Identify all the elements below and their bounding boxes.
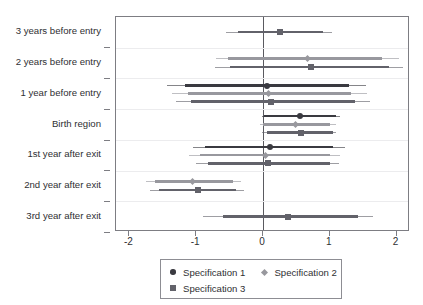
y-axis-tick-label: 2 years before entry xyxy=(16,56,101,67)
y-axis-labels: 3 years before entry2 years before entry… xyxy=(0,16,110,231)
legend-item-specification-3: Specification 3 xyxy=(168,283,245,294)
y-axis-tick-label: Birth region xyxy=(52,118,101,129)
y-axis-tick xyxy=(104,201,110,202)
estimate-marker-square xyxy=(265,160,271,166)
plot-area xyxy=(115,16,409,231)
y-axis-tick-label: 3rd year after exit xyxy=(26,210,101,221)
estimate-marker-square xyxy=(268,99,274,105)
legend-square-marker-icon xyxy=(168,283,178,293)
x-axis-tick-label: -2 xyxy=(124,236,133,248)
estimate-row xyxy=(116,26,408,38)
y-axis-tick xyxy=(104,140,110,141)
x-axis-tick-label: -1 xyxy=(191,236,200,248)
estimate-marker-square xyxy=(308,64,314,70)
estimate-row xyxy=(116,157,408,169)
legend-circle-marker-icon xyxy=(168,267,178,277)
y-axis-tick xyxy=(104,78,110,79)
estimate-row xyxy=(116,96,408,108)
estimate-marker-square xyxy=(285,214,291,220)
legend-diamond-marker-icon xyxy=(259,267,269,277)
estimate-row xyxy=(116,61,408,73)
legend-label-specification-3: Specification 3 xyxy=(183,283,245,294)
grid-line xyxy=(116,48,408,49)
y-axis-tick xyxy=(104,170,110,171)
estimate-row xyxy=(116,211,408,223)
legend-label-specification-1: Specification 1 xyxy=(183,267,245,278)
legend-row-2: Specification 3 xyxy=(168,280,334,296)
legend-row-1: Specification 1 Specification 2 xyxy=(168,264,334,280)
y-axis-tick-label: 2nd year after exit xyxy=(24,179,101,190)
x-axis: -2-1012 xyxy=(115,231,409,253)
x-axis-tick-label: 1 xyxy=(326,236,332,248)
legend-label-specification-2: Specification 2 xyxy=(274,267,336,278)
legend-item-specification-2: Specification 2 xyxy=(259,267,336,278)
estimate-marker-square xyxy=(195,187,201,193)
estimate-marker-square xyxy=(277,29,283,35)
estimate-row xyxy=(116,184,408,196)
coefficient-plot-figure: 3 years before entry2 years before entry… xyxy=(0,0,423,305)
x-axis-tick-label: 0 xyxy=(259,236,265,248)
y-axis-tick xyxy=(104,109,110,110)
y-axis-tick xyxy=(104,232,110,233)
x-axis-tick-label: 2 xyxy=(393,236,399,248)
estimate-row xyxy=(116,127,408,139)
grid-line xyxy=(116,171,408,172)
legend-item-specification-1: Specification 1 xyxy=(168,267,245,278)
y-axis-tick-label: 1 year before entry xyxy=(20,87,101,98)
y-axis-tick xyxy=(104,47,110,48)
grid-line xyxy=(116,201,408,202)
estimate-marker-square xyxy=(298,130,304,136)
y-axis-tick-label: 1st year after exit xyxy=(27,148,101,159)
chart-legend: Specification 1 Specification 2 Specific… xyxy=(160,259,342,299)
y-axis-tick-label: 3 years before entry xyxy=(16,25,101,36)
